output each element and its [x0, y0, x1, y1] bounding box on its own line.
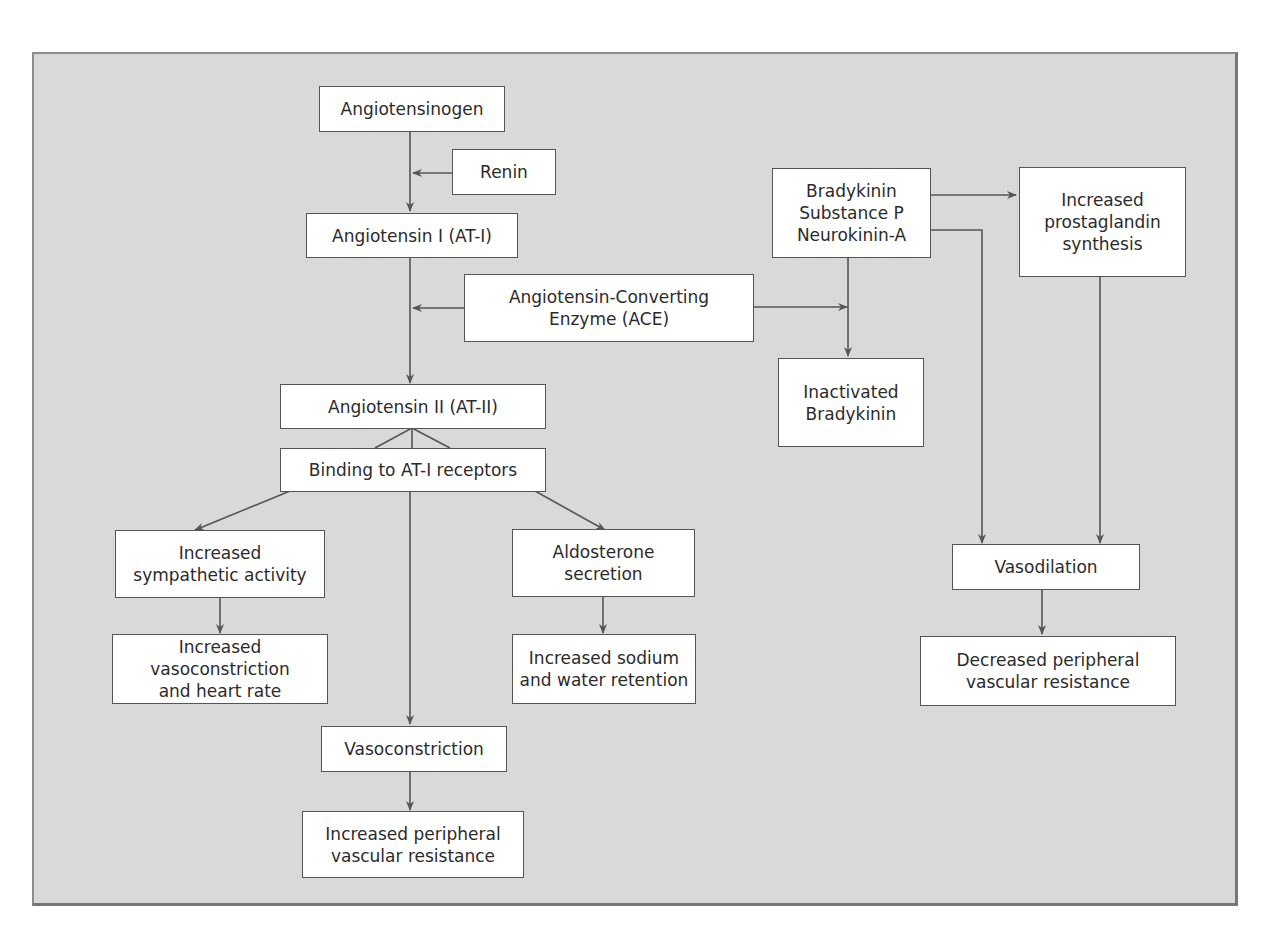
- node-angiotensinogen: Angiotensinogen: [319, 86, 505, 132]
- node-angiotensin-ii: Angiotensin II (AT-II): [280, 384, 546, 429]
- node-ace: Angiotensin-Converting Enzyme (ACE): [464, 274, 754, 342]
- connector-lines: [0, 0, 1270, 932]
- node-inactivated-bradykinin: Inactivated Bradykinin: [778, 358, 924, 447]
- node-increased-pvr: Increased peripheral vascular resistance: [302, 811, 524, 878]
- node-vasoconstriction: Vasoconstriction: [321, 726, 507, 772]
- node-renin: Renin: [452, 149, 556, 195]
- node-vasodilation: Vasodilation: [952, 544, 1140, 590]
- node-prostaglandin: Increased prostaglandin synthesis: [1019, 167, 1186, 277]
- node-angiotensin-i: Angiotensin I (AT-I): [306, 213, 518, 258]
- node-aldosterone: Aldosterone secretion: [512, 529, 695, 597]
- node-binding-receptors: Binding to AT-I receptors: [280, 448, 546, 492]
- node-sodium-water-retention: Increased sodium and water retention: [512, 634, 696, 704]
- node-sympathetic-activity: Increased sympathetic activity: [115, 530, 325, 598]
- node-decreased-pvr: Decreased peripheral vascular resistance: [920, 636, 1176, 706]
- node-vasoconstriction-heart-rate: Increased vasoconstriction and heart rat…: [112, 634, 328, 704]
- node-bradykinin: Bradykinin Substance P Neurokinin-A: [772, 168, 931, 258]
